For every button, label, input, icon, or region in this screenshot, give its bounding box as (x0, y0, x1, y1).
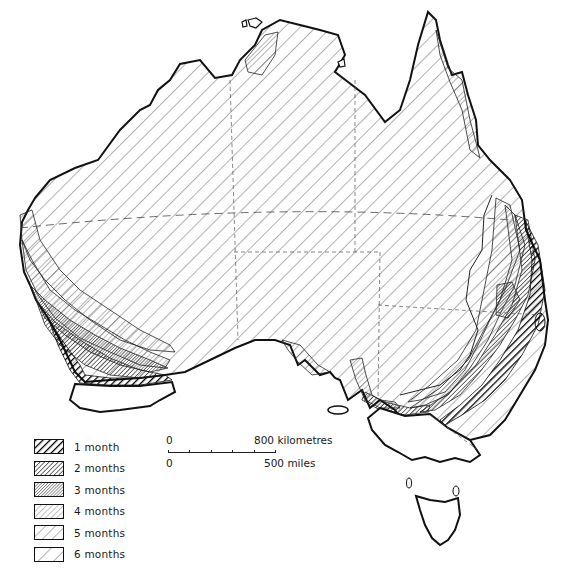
swatch-4-months (34, 504, 64, 519)
scale-bar: 0 800 kilometres 0 500 miles (166, 434, 286, 474)
swatch-3-months (34, 482, 64, 497)
scale-mi-start: 0 (166, 457, 173, 469)
swatch-2-months (34, 461, 64, 476)
kangaroo-island (328, 406, 348, 414)
caption-truncated (0, 560, 573, 569)
legend-item-2-months: 2 months (34, 458, 125, 480)
legend-label: 6 months (74, 548, 125, 560)
legend-label: 5 months (74, 527, 125, 539)
scale-km-end: 800 kilometres (254, 434, 333, 446)
legend-item-1-month: 1 month (34, 436, 125, 458)
legend-label: 3 months (74, 484, 125, 496)
swatch-5-months (34, 525, 64, 540)
tasmania (416, 496, 460, 545)
king-island (407, 478, 412, 488)
legend: 1 month 2 months 3 months 4 months 5 mon… (34, 436, 125, 565)
bathurst-island (242, 20, 247, 27)
melville-island (248, 18, 262, 28)
flinders-island (453, 486, 459, 496)
scale-line (168, 452, 276, 453)
legend-label: 4 months (74, 505, 125, 517)
legend-item-5-months: 5 months (34, 522, 125, 544)
swatch-1-month (34, 439, 64, 454)
scale-km-start: 0 (166, 434, 173, 446)
legend-label: 1 month (74, 441, 120, 453)
legend-item-4-months: 4 months (34, 501, 125, 523)
sw-unhatched-land (70, 382, 175, 412)
scale-mi-end: 500 miles (264, 457, 315, 469)
legend-item-3-months: 3 months (34, 479, 125, 501)
legend-label: 2 months (74, 462, 125, 474)
zone-1-month-island (535, 313, 545, 331)
